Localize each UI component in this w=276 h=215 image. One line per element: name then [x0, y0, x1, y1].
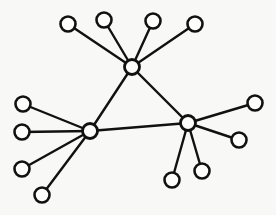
- graph-leaf-node[interactable]: [188, 17, 203, 32]
- graph-leaf-node[interactable]: [97, 13, 112, 28]
- graph-hub-node[interactable]: [83, 124, 98, 139]
- graph-leaf-node[interactable]: [248, 96, 263, 111]
- graph-edge: [90, 123, 188, 131]
- graph-edge: [132, 67, 188, 123]
- graph-canvas: [0, 0, 276, 215]
- edge-layer: [22, 20, 255, 195]
- graph-edge: [22, 131, 90, 169]
- graph-hub-node[interactable]: [181, 116, 196, 131]
- node-layer: [15, 13, 263, 203]
- graph-leaf-node[interactable]: [15, 125, 30, 140]
- graph-edge: [68, 24, 132, 67]
- graph-leaf-node[interactable]: [35, 188, 50, 203]
- graph-leaf-node[interactable]: [232, 133, 247, 148]
- graph-edge: [188, 103, 255, 123]
- graph-leaf-node[interactable]: [165, 173, 180, 188]
- graph-hub-node[interactable]: [125, 60, 140, 75]
- graph-leaf-node[interactable]: [195, 164, 210, 179]
- graph-leaf-node[interactable]: [146, 14, 161, 29]
- graph-edge: [42, 131, 90, 195]
- graph-leaf-node[interactable]: [16, 97, 31, 112]
- graph-leaf-node[interactable]: [61, 17, 76, 32]
- graph-edge: [23, 104, 90, 131]
- graph-edge: [90, 67, 132, 131]
- graph-leaf-node[interactable]: [15, 162, 30, 177]
- network-graph: [0, 0, 276, 215]
- graph-edge: [22, 131, 90, 132]
